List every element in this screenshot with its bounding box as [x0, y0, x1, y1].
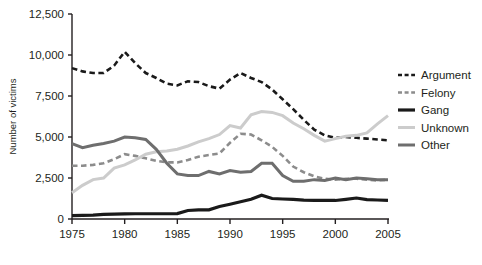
x-tick-label: 1990 — [217, 228, 243, 240]
y-tick-label: 10,000 — [29, 49, 64, 61]
x-tick-label: 2005 — [375, 228, 401, 240]
y-tick-label: 12,500 — [29, 8, 64, 20]
legend-label-argument: Argument — [421, 69, 472, 81]
y-tick-label: 2,500 — [35, 172, 64, 184]
series-line-felony — [72, 134, 388, 181]
x-tick-label: 1980 — [112, 228, 138, 240]
y-tick-label: 7,500 — [35, 90, 64, 102]
legend-label-gang: Gang — [421, 104, 449, 116]
series-line-gang — [72, 195, 388, 216]
x-tick-label: 2000 — [323, 228, 349, 240]
x-tick-label: 1995 — [270, 228, 296, 240]
legend-label-felony: Felony — [421, 87, 456, 99]
y-axis-title: Number of victims — [7, 78, 18, 154]
chart-canvas: 02,5005,0007,50010,00012,500197519801985… — [0, 0, 482, 265]
line-chart: 02,5005,0007,50010,00012,500197519801985… — [0, 0, 482, 265]
y-tick-label: 5,000 — [35, 131, 64, 143]
y-tick-label: 0 — [58, 213, 64, 225]
legend-label-unknown: Unknown — [421, 122, 469, 134]
x-tick-label: 1975 — [59, 228, 85, 240]
legend-label-other: Other — [421, 139, 450, 151]
series-line-unknown — [72, 112, 388, 193]
x-tick-label: 1985 — [165, 228, 191, 240]
